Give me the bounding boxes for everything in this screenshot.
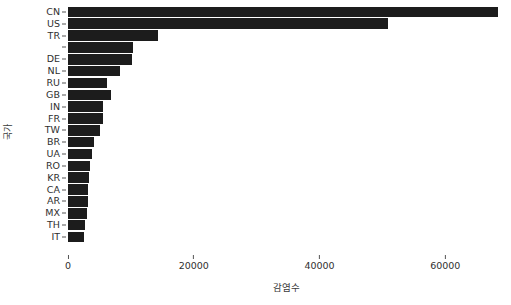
bar-row — [68, 6, 505, 18]
bar-row — [68, 196, 505, 208]
y-axis-tick: CN — [0, 6, 68, 18]
bar — [68, 113, 103, 124]
bar — [68, 220, 85, 231]
bar-row — [68, 18, 505, 30]
horizontal-bar-chart: 국가 CNUSTRDENLRUGBINFRTWBRUAROKRCAARMXTHI… — [0, 0, 511, 305]
y-axis-tick: KR — [0, 172, 68, 184]
y-axis-tick: TH — [0, 219, 68, 231]
y-axis-tick-label: IN — [50, 102, 60, 112]
x-axis-tick-label: 0 — [65, 261, 71, 271]
y-axis-tick-mark — [62, 154, 66, 155]
y-axis-tick — [0, 42, 68, 54]
bar — [68, 78, 107, 89]
bar — [68, 66, 120, 77]
bar-row — [68, 42, 505, 54]
y-axis-tick-label: IT — [51, 232, 60, 242]
y-axis-tick-label: CN — [46, 7, 60, 17]
y-axis-tick-label: CA — [47, 185, 60, 195]
x-axis-tick: 60000 — [430, 255, 460, 270]
y-axis-tick-labels: CNUSTRDENLRUGBINFRTWBRUAROKRCAARMXTHIT — [0, 6, 68, 255]
bar-row — [68, 231, 505, 243]
y-axis-tick-mark — [62, 11, 66, 12]
bar-row — [68, 65, 505, 77]
bar-row — [68, 160, 505, 172]
y-axis-tick: RU — [0, 77, 68, 89]
y-axis-tick-mark — [62, 23, 66, 24]
bar — [68, 172, 89, 183]
bar — [68, 54, 132, 65]
bar-row — [68, 172, 505, 184]
bar — [68, 125, 100, 136]
bar — [68, 161, 90, 172]
y-axis-tick-label: BR — [47, 137, 60, 147]
x-axis-tick-label: 60000 — [430, 261, 460, 271]
y-axis-tick: RO — [0, 160, 68, 172]
bar-row — [68, 53, 505, 65]
y-axis-tick: CA — [0, 184, 68, 196]
y-axis-tick: IT — [0, 231, 68, 243]
bar — [68, 101, 103, 112]
y-axis-tick: IN — [0, 101, 68, 113]
y-axis-tick: TW — [0, 124, 68, 136]
bar-row — [68, 77, 505, 89]
bar-row — [68, 124, 505, 136]
y-axis-tick-mark — [62, 59, 66, 60]
y-axis-tick-label: TH — [47, 220, 60, 230]
bar-row — [68, 219, 505, 231]
y-axis-tick-mark — [62, 106, 66, 107]
y-axis-tick-mark — [62, 189, 66, 190]
bar — [68, 42, 133, 53]
bar — [68, 30, 158, 41]
bar — [68, 7, 498, 18]
y-axis-tick-mark — [62, 213, 66, 214]
x-axis-title: 감염수 — [68, 283, 505, 293]
x-axis-tick-label: 20000 — [179, 261, 209, 271]
y-axis-tick-label: GB — [46, 90, 60, 100]
y-axis-tick-mark — [62, 82, 66, 83]
bar-row — [68, 113, 505, 125]
y-axis-tick-label: TW — [45, 126, 60, 136]
y-axis-tick-label: AR — [47, 197, 60, 207]
y-axis-tick-label: US — [47, 19, 60, 29]
x-axis-tick-labels: 0200004000060000 — [68, 255, 505, 281]
y-axis-tick-mark — [62, 225, 66, 226]
y-axis-tick-label: MX — [45, 209, 60, 219]
bar — [68, 208, 87, 219]
y-axis-tick: GB — [0, 89, 68, 101]
y-axis-tick: AR — [0, 196, 68, 208]
bar-row — [68, 148, 505, 160]
y-axis-tick: US — [0, 18, 68, 30]
y-axis-tick-mark — [62, 201, 66, 202]
y-axis-tick-mark — [62, 71, 66, 72]
y-axis-tick-label: UA — [47, 149, 60, 159]
y-axis-tick-mark — [62, 35, 66, 36]
y-axis-tick-mark — [62, 118, 66, 119]
bar-row — [68, 101, 505, 113]
y-axis-tick: BR — [0, 136, 68, 148]
y-axis-tick-mark — [62, 94, 66, 95]
bar-row — [68, 207, 505, 219]
x-axis-tick: 40000 — [304, 255, 334, 270]
bar — [68, 90, 111, 101]
y-axis-tick-label: RU — [46, 78, 60, 88]
y-axis-tick-label: DE — [47, 55, 60, 65]
x-axis-tick-mark — [319, 255, 320, 259]
y-axis-tick: TR — [0, 30, 68, 42]
y-axis-tick: MX — [0, 207, 68, 219]
y-axis-tick: FR — [0, 113, 68, 125]
bar-row — [68, 184, 505, 196]
x-axis-tick-mark — [193, 255, 194, 259]
y-axis-tick-label: FR — [48, 114, 60, 124]
y-axis-tick-mark — [62, 236, 66, 237]
y-axis-tick-mark — [62, 142, 66, 143]
x-axis-tick: 0 — [65, 255, 71, 270]
bar-row — [68, 89, 505, 101]
y-axis-tick: DE — [0, 53, 68, 65]
y-axis-tick-mark — [62, 177, 66, 178]
bar — [68, 18, 388, 29]
bar — [68, 196, 88, 207]
y-axis-tick: NL — [0, 65, 68, 77]
x-axis-tick-label: 40000 — [304, 261, 334, 271]
bar — [68, 137, 94, 148]
y-axis-tick-mark — [62, 47, 66, 48]
